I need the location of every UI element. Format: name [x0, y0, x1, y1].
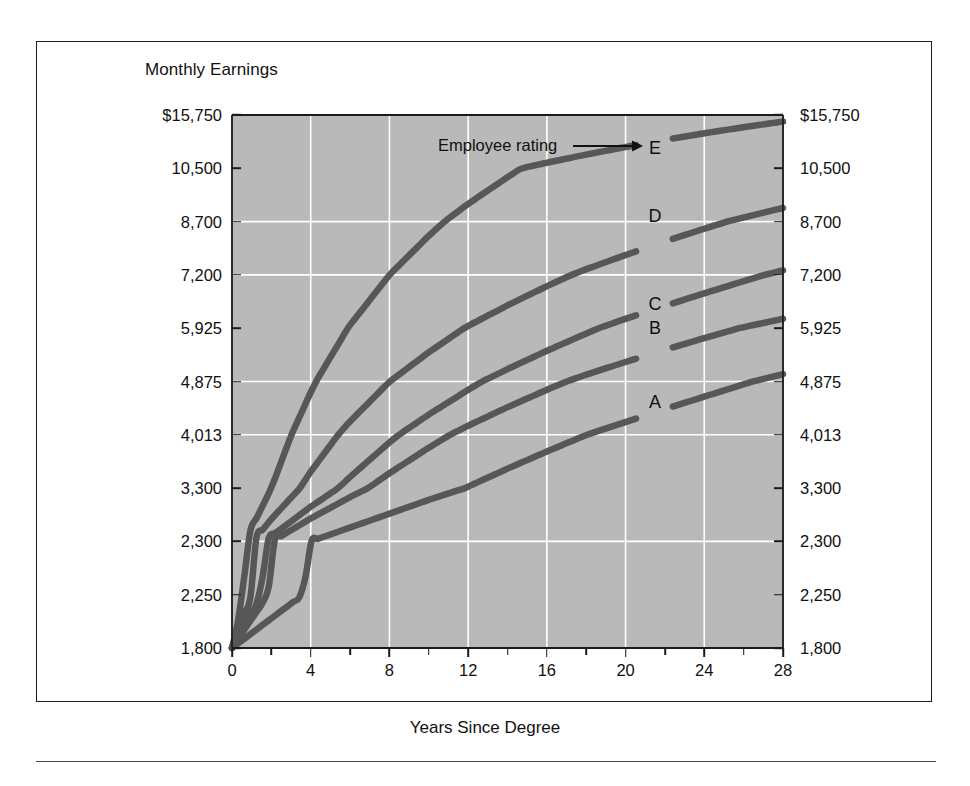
x-axis-tick-major: [231, 648, 233, 657]
x-axis-title: Years Since Degree: [0, 718, 970, 738]
y-axis-label-left: 4,875: [110, 373, 222, 390]
y-axis-tick-left: [232, 274, 241, 276]
curve-label-D: D: [649, 205, 662, 226]
y-axis-label-left: 2,300: [110, 533, 222, 550]
y-axis-tick-left: [232, 114, 241, 116]
x-axis-tick-major: [703, 648, 705, 657]
curve-label-E: E: [649, 137, 661, 158]
x-axis-tick-major: [389, 648, 391, 657]
y-axis-label-left: 8,700: [110, 213, 222, 230]
x-axis-tick-major: [625, 648, 627, 657]
x-axis-tick-minor: [664, 648, 666, 655]
y-axis-tick-right: [774, 434, 783, 436]
x-axis-tick-minor: [428, 648, 430, 655]
y-axis-label-left: 7,200: [110, 267, 222, 284]
x-axis-tick-major: [782, 648, 784, 657]
y-axis-tick-left: [232, 594, 241, 596]
y-axis-tick-left: [232, 434, 241, 436]
x-axis-tick-minor: [271, 648, 273, 655]
x-axis-label: 12: [459, 662, 477, 679]
y-axis-label-right: 3,300: [800, 480, 912, 497]
x-axis-tick-minor: [349, 648, 351, 655]
y-axis-tick-right: [774, 594, 783, 596]
y-axis-label-left: 3,300: [110, 480, 222, 497]
x-axis-tick-major: [467, 648, 469, 657]
y-axis-tick-left: [232, 221, 241, 223]
y-axis-label-left: 5,925: [110, 320, 222, 337]
y-axis-label-right: 2,250: [800, 586, 912, 603]
y-axis-tick-right: [774, 327, 783, 329]
y-axis-label-left: 10,500: [110, 160, 222, 177]
x-axis-label: 28: [774, 662, 792, 679]
annotation-employee-rating: Employee rating: [438, 136, 557, 155]
y-axis-label-left: 1,800: [110, 640, 222, 657]
x-axis-tick-minor: [743, 648, 745, 655]
x-axis-label: 20: [616, 662, 634, 679]
x-axis-tick-major: [546, 648, 548, 657]
y-axis-tick-right: [774, 114, 783, 116]
x-axis-label: 8: [385, 662, 394, 679]
y-axis-tick-left: [232, 381, 241, 383]
y-axis-label-right: 8,700: [800, 213, 912, 230]
y-axis-label-right: 4,013: [800, 427, 912, 444]
x-axis-tick-major: [310, 648, 312, 657]
x-axis-tick-minor: [585, 648, 587, 655]
bottom-divider-rule: [36, 761, 936, 762]
y-axis-label-left: $15,750: [110, 107, 222, 124]
y-axis-label-right: 1,800: [800, 640, 912, 657]
y-axis-label-right: 10,500: [800, 160, 912, 177]
curve-label-B: B: [649, 318, 661, 339]
y-axis-tick-left: [232, 168, 241, 170]
y-axis-label-left: 2,250: [110, 586, 222, 603]
y-axis-tick-right: [774, 541, 783, 543]
y-axis-tick-left: [232, 541, 241, 543]
y-axis-tick-right: [774, 221, 783, 223]
y-axis-tick-right: [774, 274, 783, 276]
y-axis-label-right: 7,200: [800, 267, 912, 284]
y-axis-label-left: 4,013: [110, 427, 222, 444]
curve-label-A: A: [649, 391, 661, 412]
x-axis-label: 0: [227, 662, 236, 679]
y-axis-label-right: 2,300: [800, 533, 912, 550]
y-axis-tick-left: [232, 647, 241, 649]
x-axis-label: 24: [695, 662, 713, 679]
x-axis-label: 16: [538, 662, 556, 679]
y-axis-tick-left: [232, 327, 241, 329]
y-axis-tick-right: [774, 381, 783, 383]
x-axis-tick-minor: [507, 648, 509, 655]
x-axis-label: 4: [306, 662, 315, 679]
y-axis-tick-right: [774, 487, 783, 489]
y-axis-label-right: 5,925: [800, 320, 912, 337]
curve-label-C: C: [649, 294, 662, 315]
y-axis-tick-left: [232, 487, 241, 489]
y-axis-label-right: 4,875: [800, 373, 912, 390]
y-axis-label-right: $15,750: [800, 107, 912, 124]
y-axis-tick-right: [774, 168, 783, 170]
